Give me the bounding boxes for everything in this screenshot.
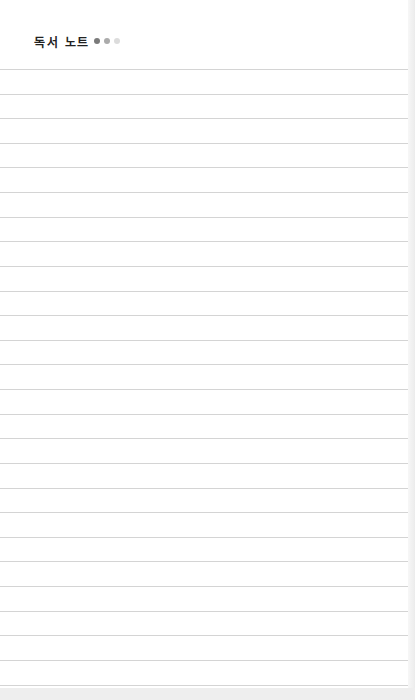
ruled-line — [0, 611, 408, 612]
decorative-dots — [94, 38, 120, 44]
ruled-line — [0, 217, 408, 218]
ruled-line — [0, 241, 408, 242]
ruled-line — [0, 389, 408, 390]
ruled-line — [0, 414, 408, 415]
ruled-line — [0, 586, 408, 587]
ruled-line — [0, 266, 408, 267]
ruled-line — [0, 512, 408, 513]
paper-edge — [408, 0, 415, 700]
ruled-line — [0, 340, 408, 341]
ruled-line — [0, 537, 408, 538]
ruled-line — [0, 364, 408, 365]
bottom-edge — [0, 688, 415, 700]
ruled-line — [0, 463, 408, 464]
page-header: 독서 노트 — [34, 33, 120, 49]
notebook-page: 독서 노트 — [0, 0, 410, 692]
ruled-line — [0, 192, 408, 193]
dot-icon-dark — [94, 38, 100, 44]
ruled-line — [0, 167, 408, 168]
ruled-line — [0, 561, 408, 562]
ruled-line — [0, 635, 408, 636]
ruled-line — [0, 143, 408, 144]
ruled-line — [0, 438, 408, 439]
ruled-line — [0, 69, 408, 70]
ruled-line — [0, 118, 408, 119]
page-title: 독서 노트 — [34, 33, 90, 50]
ruled-line — [0, 660, 408, 661]
ruled-line — [0, 488, 408, 489]
ruled-line — [0, 291, 408, 292]
ruled-line — [0, 315, 408, 316]
dot-icon-medium — [104, 38, 110, 44]
dot-icon-light — [114, 38, 120, 44]
ruled-line — [0, 94, 408, 95]
ruled-line — [0, 685, 408, 686]
